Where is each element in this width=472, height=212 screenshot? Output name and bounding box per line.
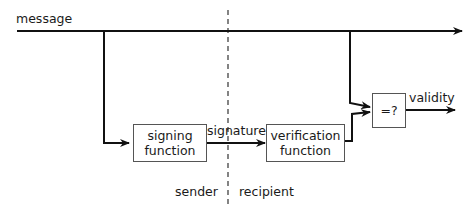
compare-box-label: =? xyxy=(380,103,397,118)
message-to-signing-arrow xyxy=(104,31,129,143)
signature-label: signature xyxy=(207,124,266,138)
signing-box-line2: function xyxy=(144,143,195,158)
sender-label: sender xyxy=(175,185,218,199)
verification-function-box: verification function xyxy=(266,124,345,162)
recipient-label: recipient xyxy=(239,185,294,199)
verification-to-compare-arrow xyxy=(345,112,370,141)
signing-box-line1: signing xyxy=(144,128,195,143)
compare-box: =? xyxy=(372,93,406,128)
verification-box-line2: function xyxy=(270,143,340,158)
signing-function-box: signing function xyxy=(133,124,207,162)
validity-label: validity xyxy=(409,91,455,105)
message-to-compare-arrow xyxy=(350,31,370,107)
message-label: message xyxy=(16,12,72,26)
verification-box-line1: verification xyxy=(270,128,340,143)
